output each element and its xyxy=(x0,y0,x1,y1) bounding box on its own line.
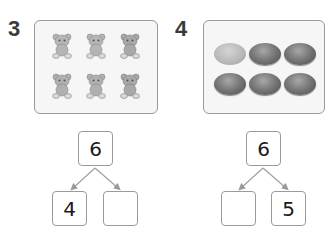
bond-part-right-box[interactable]: 5 xyxy=(271,191,306,226)
bond-whole-box: 6 xyxy=(246,131,281,166)
bond-part-left-box[interactable] xyxy=(221,191,256,226)
bond-whole-box: 6 xyxy=(78,131,113,166)
bond-part-left-box[interactable]: 4 xyxy=(52,191,87,226)
bond-part-right-box[interactable] xyxy=(103,191,138,226)
